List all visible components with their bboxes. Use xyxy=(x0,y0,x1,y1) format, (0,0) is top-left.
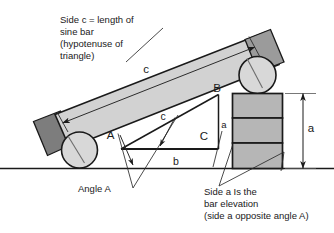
side-c-note-leader xyxy=(126,28,163,62)
side-c-note-line1: Side c = length of xyxy=(60,14,134,25)
a-dimension-label: a xyxy=(308,122,315,134)
gauge-block xyxy=(233,94,283,119)
side-c-note-line2: sine bar xyxy=(60,26,94,37)
c-dimension-label: c xyxy=(143,63,149,75)
angle-a-note-line1: Angle A xyxy=(78,183,111,194)
vertex-b-label: B xyxy=(213,82,221,94)
vertex-a-label: A xyxy=(107,129,115,141)
side-a-block-label: a xyxy=(221,119,227,130)
side-c-note: Side c = length of sine bar (hypotenuse … xyxy=(60,14,134,61)
bar-angle-a-arrow xyxy=(120,135,133,165)
side-a-note: Side a Is the bar elevation (side a oppo… xyxy=(204,186,309,221)
side-a-note-line2: bar elevation xyxy=(204,198,258,209)
triangle-side-b-label: b xyxy=(173,155,179,167)
diagram-canvas: c A B C c b a a xyxy=(0,0,334,233)
angle-a-note: Angle A xyxy=(78,183,111,194)
gauge-block xyxy=(233,118,283,143)
side-a-note-line3: (side a opposite angle A) xyxy=(204,210,309,221)
gauge-block xyxy=(233,143,283,169)
side-a-note-line1: Side a Is the xyxy=(204,186,257,197)
left-roller xyxy=(62,132,98,168)
gauge-block-stack xyxy=(233,94,283,169)
side-c-note-line3: (hypotenuse of xyxy=(60,38,123,49)
side-c-note-line4: triangle) xyxy=(60,50,94,61)
right-roller xyxy=(239,57,276,94)
triangle-side-c-label: c xyxy=(160,110,165,122)
sine-bar-diagram-svg: c A B C c b a a xyxy=(0,0,334,233)
vertex-c-label: C xyxy=(200,130,208,142)
